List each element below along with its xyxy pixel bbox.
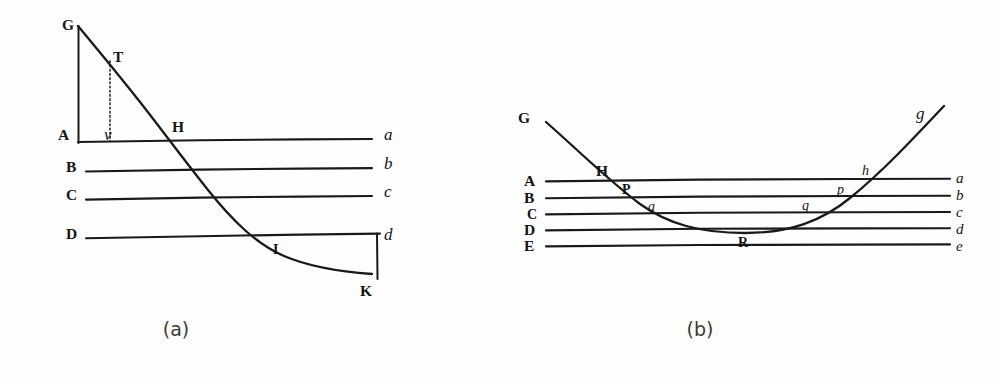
figure-root: G T v A H B C D I K a b c d (a) [0,0,996,377]
label-point-I-a: I [273,242,278,257]
label-point-G-b: G [518,109,530,126]
label-point-p-right-b: p [836,182,844,197]
line-A-a-b [546,179,950,182]
line-C-c-b [546,212,950,214]
label-point-K-a: K [360,282,372,299]
label-point-H-b: H [596,162,608,179]
caption-panel-a: (a) [163,318,189,340]
label-line-a-lower: a [384,125,393,144]
line-C-c [86,196,372,200]
label-line-C-b: C [527,207,537,222]
label-line-E-b: E [524,237,534,254]
panel-a: G T v A H B C D I K a b c d (a) [58,16,393,340]
label-point-T-a: T [113,48,124,65]
label-line-b-lower-b: b [956,187,964,203]
label-line-b-lower: b [384,154,393,173]
label-line-d-lower: d [384,225,393,244]
label-line-c-lower-b: c [956,204,963,220]
label-line-A-b: A [524,172,536,189]
label-point-v-a: v [104,125,112,144]
label-point-a-left-b: a [648,199,655,214]
line-D-d [86,234,380,239]
line-B-b-b [546,196,950,198]
label-point-G-a: G [62,16,74,33]
label-line-e-lower-b: e [956,238,963,254]
label-line-d-lower-b: d [956,221,964,237]
label-line-c-lower: c [384,182,392,201]
label-line-D-b: D [524,221,535,238]
line-B-b [86,168,372,171]
panel-b: G H P a R q p h g A B C D E a b c d e (b… [518,104,964,340]
label-point-g-right-b: g [916,104,925,123]
line-D-d-b [546,228,950,230]
label-line-C: C [66,186,77,203]
label-point-R-b: R [738,235,749,250]
line-A-a [78,139,372,142]
label-point-H-a: H [172,118,184,135]
caption-panel-b: (b) [687,318,714,340]
label-line-B-b: B [524,189,534,206]
label-point-P-left-b: P [622,182,631,197]
label-point-h-right-b: h [862,163,869,178]
label-point-q-right-b: q [802,198,809,213]
label-line-D: D [66,225,77,242]
label-line-B: B [66,158,76,175]
label-line-a-lower-b: a [956,170,964,186]
segment-d-K [377,234,378,279]
label-line-A: A [58,126,70,143]
scanned-geometric-figure: G T v A H B C D I K a b c d (a) [0,0,996,377]
